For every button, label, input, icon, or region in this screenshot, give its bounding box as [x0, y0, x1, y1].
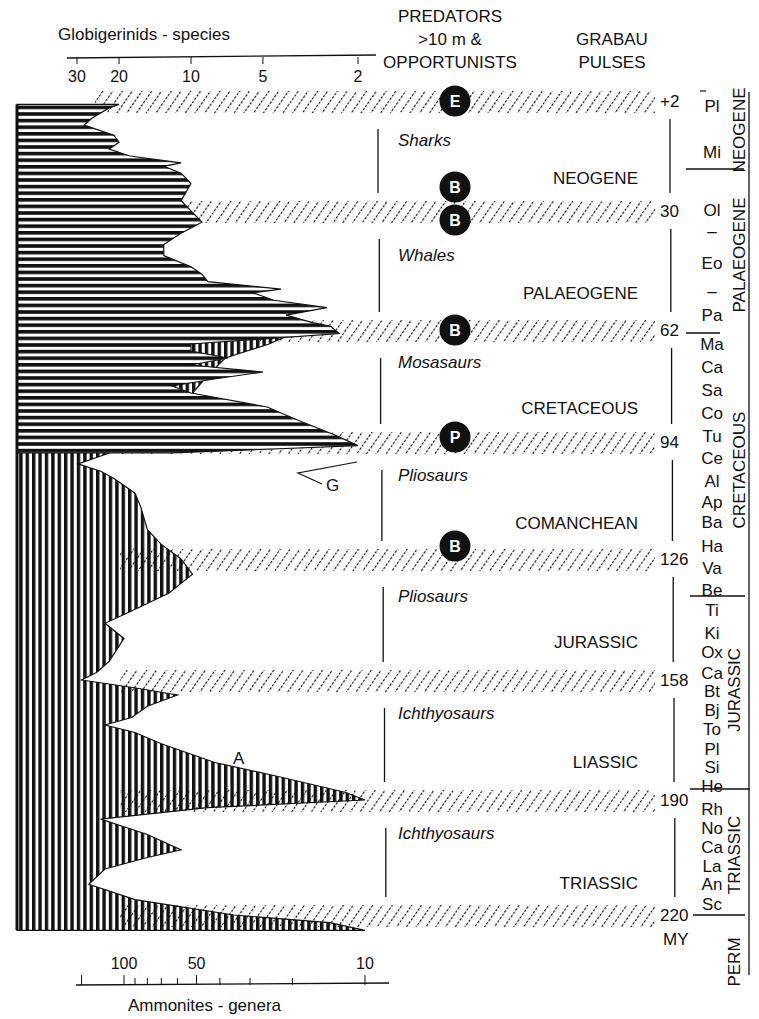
top-axis-tick-label: 10	[182, 68, 200, 85]
marker-b-icon: B	[440, 205, 471, 236]
pulse-label: 190	[660, 791, 688, 810]
stage-label: Eo	[702, 254, 723, 273]
marker-letter: E	[450, 93, 461, 110]
stage-label: Ap	[702, 493, 723, 512]
top-axis-line	[67, 55, 376, 58]
age-unit-label: MY	[663, 930, 689, 949]
pulse-label: 30	[660, 202, 679, 221]
predators-header-line: OPPORTUNISTS	[383, 53, 517, 72]
globigerinids-area	[17, 104, 358, 453]
pulse-label: 126	[660, 550, 688, 569]
predator-names: SharksWhalesMosasaursPliosaursPliosaursI…	[398, 131, 495, 844]
predator-name: Ichthyosaurs	[398, 704, 495, 723]
top-axis-tick-label: 30	[68, 68, 86, 85]
era-name: JURASSIC	[554, 633, 638, 652]
marker-b-icon: B	[440, 172, 471, 203]
stage-label: Bt	[704, 682, 720, 701]
stage-label: Ox	[701, 643, 723, 662]
stage-label: Si	[704, 758, 719, 777]
stage-label: –	[707, 282, 717, 301]
bottom-axis-tick-label: 10	[356, 955, 374, 972]
stage-label: Pa	[702, 306, 723, 325]
event-markers: EBBBPB	[440, 86, 471, 562]
era-name: CRETACEOUS	[521, 399, 638, 418]
bottom-axis-tick-label: 100	[111, 955, 138, 972]
era-name: COMANCHEAN	[515, 514, 638, 533]
marker-b-icon: B	[440, 531, 471, 562]
stage-label: Sa	[702, 381, 723, 400]
period-label: CRETACEOUS	[730, 412, 749, 529]
marker-letter: P	[450, 429, 461, 446]
stage-label: Be	[702, 581, 723, 600]
stage-label: Rh	[701, 800, 723, 819]
marker-letter: B	[449, 179, 461, 196]
grabau-header-line: PULSES	[578, 53, 645, 72]
predators-header-line: PREDATORS	[398, 7, 502, 26]
stage-label: Sc	[702, 895, 722, 914]
stage-label: Ma	[700, 335, 724, 354]
stage-label: Co	[701, 404, 723, 423]
pulse-label: 220	[660, 906, 688, 925]
stage-label: Ca	[701, 664, 723, 683]
stage-label: Ca	[701, 838, 723, 857]
pulse-label: 94	[660, 433, 679, 452]
stage-label: –	[707, 222, 717, 241]
predators-header: PREDATORS>10 m &OPPORTUNISTS	[383, 7, 517, 72]
pulse-label: +2	[660, 92, 679, 111]
pulse-band	[120, 549, 655, 571]
predator-name: Whales	[398, 246, 455, 265]
stage-label: Tu	[702, 427, 721, 446]
stage-label: La	[703, 857, 722, 876]
stage-label: Pl	[704, 740, 719, 759]
stage-label: Ba	[702, 513, 723, 532]
pulse-range-lines	[670, 119, 675, 897]
bottom-axis: 1005010 Ammonites - genera	[76, 955, 389, 1015]
predator-name: Pliosaurs	[398, 466, 468, 485]
top-axis-tick-label: 2	[354, 68, 363, 85]
era-name: NEOGENE	[553, 169, 638, 188]
pulse-band	[95, 91, 655, 113]
stage-label: Ti	[705, 601, 719, 620]
annotations: GA	[233, 462, 357, 768]
stage-label: Ce	[701, 449, 723, 468]
stage-label: Ol	[704, 201, 721, 220]
period-label: TRIASSIC	[725, 816, 744, 894]
predator-name: Mosasaurs	[398, 353, 482, 372]
era-name: TRIASSIC	[560, 874, 638, 893]
stage-label: Ki	[704, 624, 719, 643]
marker-e-icon: E	[440, 86, 471, 117]
bottom-axis-label: Ammonites - genera	[128, 996, 282, 1015]
predator-name: Pliosaurs	[398, 587, 468, 606]
grabau-header: GRABAUPULSES	[576, 30, 648, 72]
annotation-g: G	[326, 476, 339, 495]
chart: Globigerinids - species 30201052 1005010…	[0, 0, 759, 1019]
marker-letter: B	[449, 538, 461, 555]
period-label: PALAEOGENE	[730, 198, 749, 313]
predator-name: Ichthyosaurs	[398, 824, 495, 843]
stage-label: He	[701, 777, 723, 796]
stage-label: Bj	[704, 701, 719, 720]
period-label: NEOGENE	[730, 87, 749, 172]
pulse-label: 62	[660, 321, 679, 340]
stage-label: An	[702, 875, 723, 894]
marker-b-icon: B	[440, 315, 471, 346]
stage-label: To	[703, 720, 721, 739]
era-name: PALAEOGENE	[523, 284, 638, 303]
stage-label: Va	[702, 559, 722, 578]
annotation-a: A	[233, 749, 245, 768]
era-name: LIASSIC	[573, 753, 638, 772]
top-axis: Globigerinids - species 30201052	[58, 25, 376, 85]
top-axis-tick-label: 20	[110, 68, 128, 85]
marker-letter: B	[449, 322, 461, 339]
era-names: NEOGENEPALAEOGENECRETACEOUSCOMANCHEANJUR…	[515, 169, 638, 893]
stage-label: Mi	[703, 143, 721, 162]
stage-label: Ca	[701, 358, 723, 377]
top-axis-tick-label: 5	[258, 68, 267, 85]
marker-letter: B	[449, 212, 461, 229]
stage-label: Ha	[701, 537, 723, 556]
top-axis-label: Globigerinids - species	[58, 25, 230, 44]
bottom-axis-line	[76, 983, 389, 985]
period-label: JURASSIC	[725, 648, 744, 732]
pulse-band	[120, 670, 655, 692]
stage-label: Al	[704, 472, 719, 491]
